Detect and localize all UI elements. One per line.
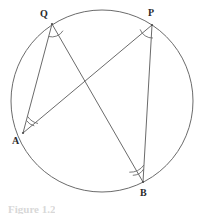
geometry-canvas — [0, 0, 201, 215]
point-label-q: Q — [40, 9, 48, 19]
point-label-b: B — [140, 188, 147, 198]
vertex-dot-p — [151, 24, 153, 26]
geometry-figure: Q P A B Figure 1.2 — [0, 0, 201, 215]
chord-pa — [23, 25, 152, 133]
vertex-dot-q — [51, 23, 53, 25]
vertex-dot-b — [142, 181, 144, 183]
circumscribed-circle — [11, 10, 193, 192]
figure-caption: Figure 1.2 — [8, 203, 55, 214]
point-label-p: P — [148, 8, 154, 18]
vertex-dot-a — [22, 132, 24, 134]
angle-arc-a-outer — [28, 116, 39, 123]
angle-arc-q — [49, 31, 63, 37]
chord-qb — [52, 24, 143, 182]
chord-pb — [143, 25, 152, 182]
point-label-a: A — [12, 136, 19, 146]
